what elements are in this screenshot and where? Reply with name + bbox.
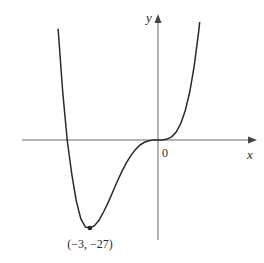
function-graph: y x 0 (−3, −27) <box>0 0 264 263</box>
x-axis-label: x <box>246 147 253 162</box>
graph-canvas: y x 0 (−3, −27) <box>0 0 264 263</box>
minimum-point-marker <box>88 226 93 231</box>
origin-label: 0 <box>162 146 168 160</box>
y-axis-arrow-icon <box>155 14 162 23</box>
function-curve <box>58 8 201 228</box>
x-axis-arrow-icon <box>248 137 257 144</box>
y-axis-label: y <box>144 10 152 25</box>
minimum-point-label: (−3, −27) <box>67 237 113 251</box>
